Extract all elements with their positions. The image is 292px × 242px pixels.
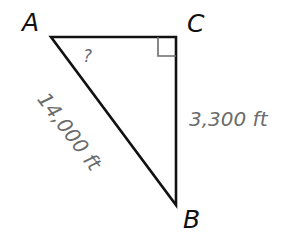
vertex-label-a: A xyxy=(22,10,39,35)
unknown-angle-label: ? xyxy=(83,48,92,65)
side-cb-length-label: 3,300 ft xyxy=(189,109,268,129)
vertex-label-b: B xyxy=(183,207,200,232)
triangle-diagram: A C B ? 3,300 ft 14,000 ft xyxy=(0,0,292,242)
right-angle-marker xyxy=(158,37,176,56)
vertex-label-c: C xyxy=(187,11,204,36)
